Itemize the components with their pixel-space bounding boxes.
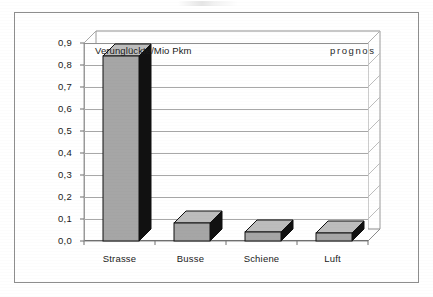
plot-title: Verunglückte/Mio Pkm [95,45,192,56]
x-label-luft: Luft [297,253,368,264]
x-label-busse: Busse [155,253,226,264]
bar-strasse [103,44,151,241]
x-label-schiene: Schiene [226,253,297,264]
x-label-strasse: Strasse [84,253,155,264]
bar-busse [174,211,222,241]
x-axis-category-labels: Strasse Busse Schiene Luft [84,253,384,269]
bar-luft [316,221,364,241]
bar-schiene [245,220,293,241]
brand-label: prognos [330,45,376,56]
